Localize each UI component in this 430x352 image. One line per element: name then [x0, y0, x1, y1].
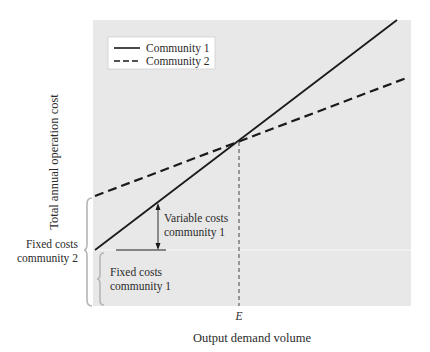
- legend-community-1: Community 1: [146, 42, 210, 55]
- fixed-costs-2-label-1: Fixed costs: [26, 238, 79, 250]
- fixed-costs-2-label-2: community 2: [17, 252, 78, 265]
- cost-diagram: Community 1 Community 2 Variable costs c…: [0, 0, 430, 352]
- legend: Community 1 Community 2: [108, 37, 215, 69]
- variable-costs-label-1: Variable costs: [164, 212, 229, 224]
- fixed-costs-1-label-2: community 1: [110, 280, 171, 293]
- x-axis-label: Output demand volume: [193, 331, 311, 345]
- legend-community-2: Community 2: [146, 55, 210, 68]
- variable-costs-label-2: community 1: [164, 226, 225, 239]
- x-axis-marker-e: E: [234, 310, 242, 322]
- y-axis-label: Total annual operation cost: [47, 94, 61, 230]
- fixed-costs-1-label-1: Fixed costs: [110, 266, 163, 278]
- fixed-costs-2-brace: [84, 198, 92, 306]
